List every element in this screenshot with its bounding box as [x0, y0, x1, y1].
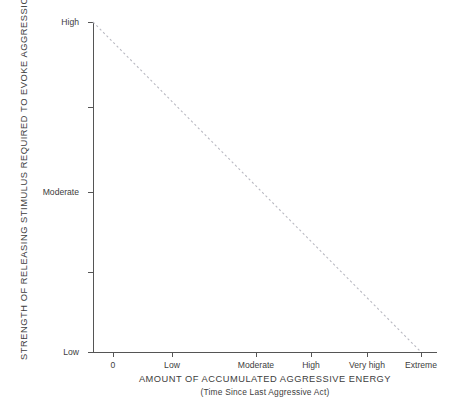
x-tick-mark	[256, 353, 257, 357]
data-series-line	[93, 22, 437, 353]
x-tick-mark	[172, 353, 173, 357]
plot-area: High Moderate Low 0 Low Moderate High Ve…	[93, 22, 437, 352]
x-tick-mark	[311, 353, 312, 357]
y-tick-label: Moderate	[43, 187, 79, 197]
x-axis-title: AMOUNT OF ACCUMULATED AGGRESSIVE ENERGY	[93, 374, 437, 384]
y-tick-label: High	[61, 17, 79, 27]
x-tick-label: High	[302, 360, 320, 370]
x-tick-label: Very high	[349, 360, 385, 370]
x-tick-label: Moderate	[238, 360, 274, 370]
x-tick-label: Low	[164, 360, 180, 370]
x-tick-label: Extreme	[405, 360, 437, 370]
y-tick-label: Low	[63, 347, 79, 357]
x-tick-mark	[113, 353, 114, 357]
x-axis-caption: AMOUNT OF ACCUMULATED AGGRESSIVE ENERGY …	[93, 374, 437, 397]
chart-figure: STRENGTH OF RELEASING STIMULUS REQUIRED …	[0, 0, 459, 414]
x-tick-mark	[367, 353, 368, 357]
x-axis-subtitle: (Time Since Last Aggressive Act)	[93, 387, 437, 397]
x-tick-label: 0	[111, 360, 116, 370]
y-axis-title: STRENGTH OF RELEASING STIMULUS REQUIRED …	[14, 20, 34, 360]
x-tick-mark	[421, 353, 422, 357]
